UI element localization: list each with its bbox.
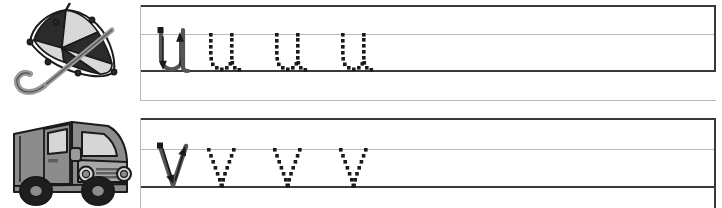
rule-midline-u [140,34,716,35]
rule-left-v [140,118,141,208]
van-icon [0,112,140,208]
writing-box-v[interactable] [140,118,716,208]
exercise-row-v [0,112,722,208]
glyph-layer-u [140,5,716,101]
trace-glyph-v-1[interactable] [204,147,244,189]
model-glyph-v [154,140,198,192]
trace-glyph-u-3[interactable] [336,32,376,74]
tracing-worksheet [0,0,722,208]
model-glyph-u [154,25,198,75]
picture-cell-umbrella [0,0,140,108]
rule-baseline-v [140,186,716,188]
rule-right-u [714,5,716,72]
umbrella-icon [0,0,140,108]
rule-baseline-u [140,70,716,72]
trace-glyph-v-2[interactable] [270,147,310,189]
trace-glyph-v-3[interactable] [336,147,376,189]
rule-top-v [140,118,716,120]
picture-cell-van [0,112,140,208]
exercise-row-u [0,0,722,108]
trace-glyph-u-1[interactable] [204,32,244,74]
rule-bottom-u [140,100,716,101]
rule-right-v [714,118,716,208]
writing-box-u[interactable] [140,5,716,101]
trace-glyph-u-2[interactable] [270,32,310,74]
glyph-layer-v [140,118,716,208]
rule-top-u [140,5,716,7]
rule-left-u [140,5,141,101]
rule-midline-v [140,149,716,150]
